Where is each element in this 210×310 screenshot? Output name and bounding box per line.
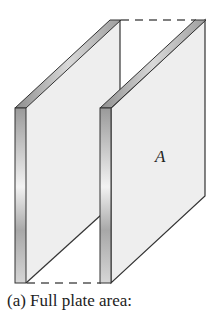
plate-area-label: A [154, 147, 166, 166]
parallel-plate-diagram: A [0, 0, 210, 310]
right-plate-front-edge [100, 108, 111, 283]
left-plate-front-edge [15, 108, 26, 283]
figure-caption: (a) Full plate area: [7, 291, 132, 310]
